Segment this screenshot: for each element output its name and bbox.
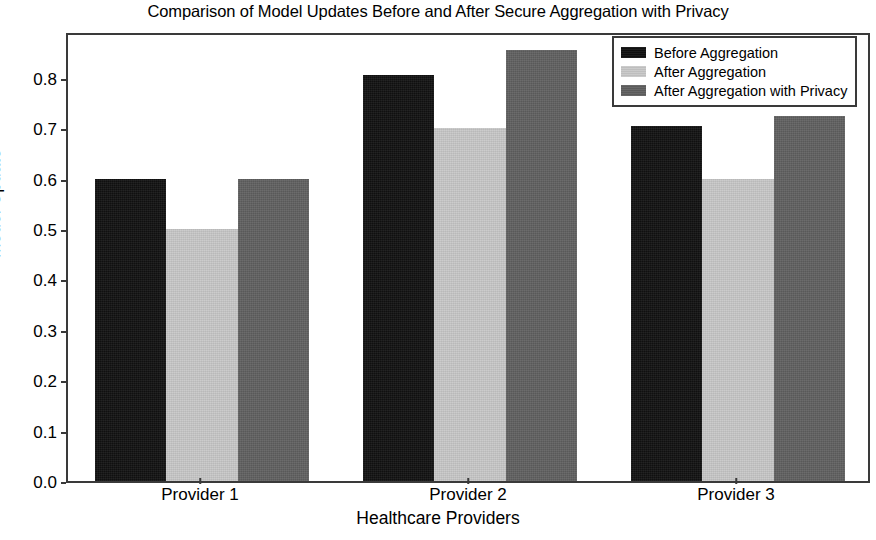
bar-provider-1-before-aggregation	[95, 179, 166, 481]
y-tick-label: 0.6	[33, 171, 57, 191]
x-tick-provider-2: Provider 2	[429, 485, 506, 505]
y-tick-mark	[61, 79, 66, 81]
chart-figure: Comparison of Model Updates Before and A…	[0, 0, 876, 540]
y-tick-mark	[61, 180, 66, 182]
y-tick-label: 0.0	[33, 473, 57, 493]
legend-item-after-aggregation-with-privacy[interactable]: After Aggregation with Privacy	[621, 81, 847, 100]
y-tick-label: 0.2	[33, 372, 57, 392]
legend-item-after-aggregation[interactable]: After Aggregation	[621, 62, 847, 81]
bar-provider-1-after-aggregation-with-privacy	[238, 179, 309, 481]
x-tick-provider-1: Provider 1	[161, 485, 238, 505]
y-tick-label: 0.8	[33, 70, 57, 90]
y-tick-mark	[61, 432, 66, 434]
legend-swatch-icon	[621, 47, 646, 58]
x-tick-label: Provider 1	[161, 485, 238, 505]
legend-label: After Aggregation with Privacy	[654, 83, 847, 99]
y-tick-label: 0.1	[33, 423, 57, 443]
x-tick-mark	[199, 478, 201, 484]
y-tick-mark	[61, 230, 66, 232]
y-tick-label: 0.5	[33, 221, 57, 241]
y-axis-label: Model Update	[0, 149, 5, 258]
bar-provider-2-after-aggregation	[434, 128, 505, 481]
legend-label: After Aggregation	[654, 64, 766, 80]
y-tick-mark	[61, 482, 66, 484]
legend-item-before-aggregation[interactable]: Before Aggregation	[621, 43, 847, 62]
x-tick-mark	[735, 478, 737, 484]
bar-provider-2-before-aggregation	[363, 75, 434, 481]
x-tick-label: Provider 2	[429, 485, 506, 505]
bar-provider-2-after-aggregation-with-privacy	[506, 50, 577, 481]
y-tick-mark	[61, 280, 66, 282]
chart-legend: Before AggregationAfter AggregationAfter…	[612, 36, 857, 107]
chart-title: Comparison of Model Updates Before and A…	[0, 2, 876, 21]
legend-swatch-icon	[621, 85, 646, 96]
y-tick-label: 0.4	[33, 271, 57, 291]
x-tick-label: Provider 3	[697, 485, 774, 505]
y-tick-label: 0.7	[33, 120, 57, 140]
bar-provider-1-after-aggregation	[166, 229, 237, 481]
x-axis-label: Healthcare Providers	[0, 508, 876, 529]
y-tick-mark	[61, 381, 66, 383]
legend-label: Before Aggregation	[654, 45, 778, 61]
bar-provider-3-after-aggregation-with-privacy	[774, 116, 845, 481]
bar-provider-3-before-aggregation	[631, 126, 702, 481]
y-tick-mark	[61, 129, 66, 131]
bar-provider-3-after-aggregation	[702, 179, 773, 481]
x-tick-provider-3: Provider 3	[697, 485, 774, 505]
y-tick-mark	[61, 331, 66, 333]
y-tick-label: 0.3	[33, 322, 57, 342]
legend-swatch-icon	[621, 66, 646, 77]
x-tick-mark	[467, 478, 469, 484]
